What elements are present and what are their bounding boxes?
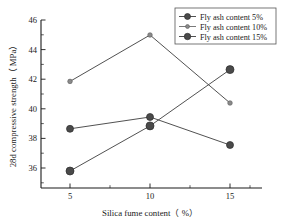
data-point-fly-ash-10-x5 <box>68 79 73 84</box>
y-tick-label-44: 44 <box>29 45 38 55</box>
legend-marker-icon-fly-ash-15 <box>184 33 190 39</box>
y-axis-title: 28d compressive strength（ MPa） <box>8 41 18 168</box>
data-point-fly-ash-5-x10 <box>147 114 154 121</box>
x-tick-label-10: 10 <box>146 191 155 201</box>
data-point-fly-ash-15-x5 <box>66 167 74 175</box>
data-point-fly-ash-15-x15 <box>226 66 234 74</box>
legend-label-fly-ash-15: Fly ash content 15% <box>200 33 267 42</box>
legend-marker-icon-fly-ash-10 <box>186 25 190 29</box>
legend-marker-icon-fly-ash-5 <box>185 14 191 20</box>
y-tick-label-46: 46 <box>29 15 38 25</box>
line-chart: 46 44 42 40 38 36 5 10 15 Silica fume co… <box>0 0 281 224</box>
x-tick-label-15: 15 <box>226 191 235 201</box>
y-tick-label-40: 40 <box>29 104 38 114</box>
data-point-fly-ash-15-x10 <box>146 122 154 130</box>
chart-legend[interactable]: Fly ash content 5% Fly ash content 10% F… <box>175 8 276 44</box>
data-point-fly-ash-10-x15 <box>228 101 233 106</box>
y-tick-label-38: 38 <box>29 133 38 143</box>
legend-label-fly-ash-10: Fly ash content 10% <box>200 23 267 32</box>
data-point-fly-ash-10-x10 <box>148 33 153 38</box>
y-tick-label-36: 36 <box>29 163 38 173</box>
data-point-fly-ash-5-x15 <box>227 142 234 149</box>
y-tick-label-42: 42 <box>29 74 38 84</box>
chart-figure: 46 44 42 40 38 36 5 10 15 Silica fume co… <box>0 0 281 224</box>
x-axis-title: Silica fume content（ %） <box>102 208 198 218</box>
x-tick-label-5: 5 <box>68 191 72 201</box>
data-point-fly-ash-5-x5 <box>67 125 74 132</box>
legend-label-fly-ash-5: Fly ash content 5% <box>200 13 263 22</box>
